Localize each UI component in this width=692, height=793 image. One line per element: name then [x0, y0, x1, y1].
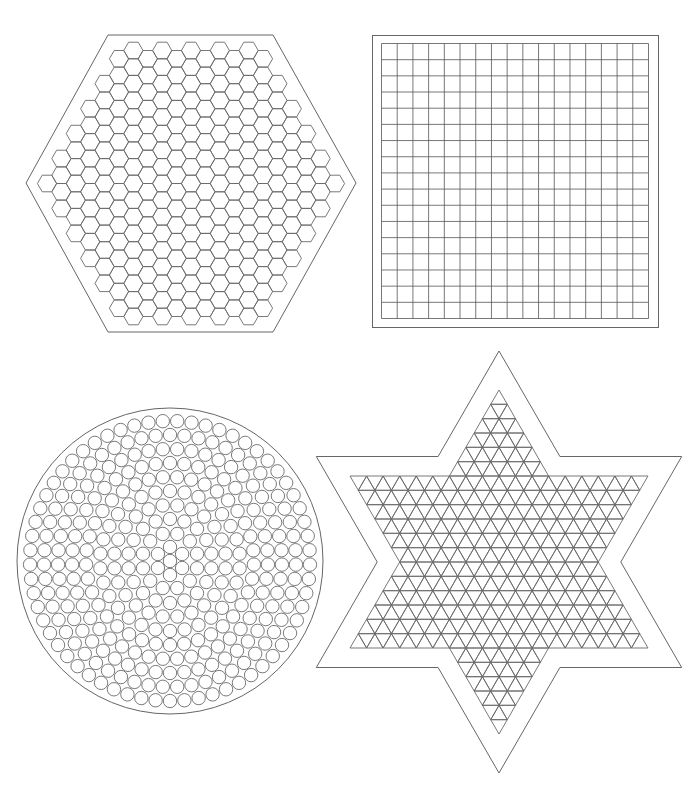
star-triangle-cell [449, 619, 466, 633]
star-triangle-cell [582, 605, 599, 619]
star-triangle-cell [491, 605, 508, 619]
round-peg [185, 444, 198, 457]
star-triangle-cell [491, 634, 508, 648]
round-peg [293, 502, 306, 515]
star-triangle-cell [598, 634, 615, 648]
star-triangle-cell [491, 677, 508, 691]
round-peg [129, 478, 142, 491]
star-triangle-cell [549, 533, 566, 547]
round-peg [135, 432, 148, 445]
star-triangle-cell [557, 576, 574, 590]
star-triangle-cell [482, 548, 499, 562]
star-triangle-cell [516, 447, 533, 461]
round-peg [52, 613, 65, 626]
round-peg [231, 504, 244, 517]
circle-pegs [23, 414, 316, 707]
round-peg [149, 457, 162, 470]
round-peg [256, 586, 269, 599]
star-triangle-cell [507, 562, 524, 576]
star-triangle-cell [590, 562, 607, 576]
star-triangle-cell [474, 476, 491, 490]
round-peg [170, 471, 183, 484]
star-triangle-cell [350, 476, 367, 490]
round-peg [101, 664, 114, 677]
circle-board-outline [17, 408, 323, 714]
round-peg [285, 586, 298, 599]
round-peg [199, 448, 212, 461]
star-triangle-cell [574, 519, 591, 533]
round-peg [215, 533, 228, 546]
round-peg [212, 670, 225, 683]
star-triangle-cell [491, 591, 508, 605]
star-triangle-cell [466, 490, 483, 504]
star-triangle-cell [582, 562, 599, 576]
star-triangle-cell [540, 505, 557, 519]
square-board-outline [373, 36, 659, 328]
star-triangle-cell [549, 562, 566, 576]
star-triangle-cell [524, 648, 541, 662]
round-peg [190, 547, 203, 560]
round-peg [244, 530, 257, 543]
star-triangle-cell [532, 505, 549, 519]
star-triangle-cell [458, 462, 475, 476]
star-triangle-cell [516, 519, 533, 533]
star-triangle-cell [466, 591, 483, 605]
round-peg [175, 561, 188, 574]
round-peg [271, 489, 284, 502]
star-triangle-cell [449, 605, 466, 619]
star-triangle-cell [598, 490, 615, 504]
star-triangle-cell [367, 505, 384, 519]
round-peg [68, 637, 81, 650]
star-triangle-cell [491, 476, 508, 490]
star-triangle-cell [590, 519, 607, 533]
round-peg [287, 489, 300, 502]
star-triangle-cell [507, 548, 524, 562]
star-triangle-cell [482, 533, 499, 547]
star-board: Star pegboard [316, 351, 681, 773]
star-triangle-cell [433, 505, 450, 519]
round-peg [29, 515, 42, 528]
star-triangle-cell [491, 619, 508, 633]
round-peg [127, 533, 140, 546]
star-triangle-cell [524, 505, 541, 519]
round-peg [142, 650, 155, 663]
star-triangle-cell [416, 591, 433, 605]
round-peg [128, 646, 141, 659]
hexagon-cell [282, 100, 301, 117]
star-triangle-cell [491, 419, 508, 433]
round-peg [183, 574, 196, 587]
star-triangle-cell [516, 433, 533, 447]
star-triangle-cell [590, 576, 607, 590]
star-triangle-cell [516, 591, 533, 605]
round-peg [223, 632, 236, 645]
round-peg [226, 429, 239, 442]
star-triangle-cell [408, 619, 425, 633]
round-peg [88, 492, 101, 505]
round-peg [221, 494, 234, 507]
round-peg [254, 466, 267, 479]
star-triangle-cell [433, 476, 450, 490]
star-triangle-cell [383, 476, 400, 490]
round-peg [88, 436, 101, 449]
star-triangle-cell [491, 490, 508, 504]
round-peg [111, 620, 124, 633]
hexagon-cell [297, 125, 316, 142]
round-peg [251, 624, 264, 637]
star-triangle-cell [482, 591, 499, 605]
star-triangle-cell [532, 533, 549, 547]
star-triangle-cell [416, 533, 433, 547]
star-triangle-cell [458, 576, 475, 590]
star-triangle-cell [574, 548, 591, 562]
star-triangle-cell [532, 648, 549, 662]
round-peg [103, 589, 116, 602]
round-peg [185, 678, 198, 691]
round-peg [84, 457, 97, 470]
star-triangle-cell [482, 619, 499, 633]
round-peg [135, 618, 148, 631]
hexagon-board: Hexagon pegboard [26, 35, 356, 332]
round-peg [208, 588, 221, 601]
star-triangle-cell [499, 548, 516, 562]
star-triangle-cell [466, 605, 483, 619]
round-peg [229, 481, 242, 494]
star-triangle-cell [375, 505, 392, 519]
